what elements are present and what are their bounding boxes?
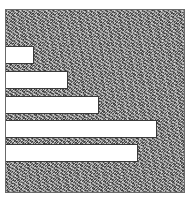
- bar-2: [6, 71, 68, 89]
- bar-1: [6, 46, 34, 64]
- chart-plot-area: [5, 9, 185, 193]
- bar-3: [6, 96, 99, 114]
- bar-4: [6, 120, 157, 138]
- bar-5: [6, 144, 138, 162]
